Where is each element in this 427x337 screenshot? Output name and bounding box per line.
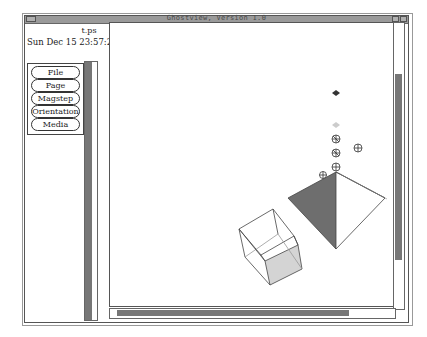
orientation-menu-button[interactable]: Orientation bbox=[31, 105, 80, 118]
rendered-page-graphic bbox=[110, 23, 393, 306]
light-diamond-shape bbox=[332, 122, 340, 128]
polyhedron-4 bbox=[332, 163, 340, 171]
command-button-box: File Page Magstep Orientation Media bbox=[27, 63, 84, 135]
dark-diamond-shape bbox=[332, 90, 340, 96]
page-menu-button[interactable]: Page bbox=[31, 79, 80, 92]
media-menu-button[interactable]: Media bbox=[31, 118, 80, 131]
polyhedron-2 bbox=[332, 149, 340, 157]
window-title: Ghostview, Version 1.0 bbox=[25, 14, 408, 22]
ghostview-window: Ghostview, Version 1.0 t.ps Sun Dec 15 2… bbox=[24, 15, 409, 323]
polyhedron-1 bbox=[332, 135, 340, 143]
postscript-view[interactable] bbox=[109, 22, 394, 307]
file-menu-button[interactable]: File bbox=[31, 66, 80, 79]
view-horizontal-scroll-thumb[interactable] bbox=[117, 310, 349, 316]
view-vertical-scrollbar[interactable] bbox=[393, 22, 405, 310]
page-list-scroll-thumb[interactable] bbox=[85, 62, 92, 320]
view-horizontal-scrollbar[interactable] bbox=[109, 308, 396, 319]
page-list-scrollbar[interactable] bbox=[84, 61, 98, 321]
magstep-menu-button[interactable]: Magstep bbox=[31, 92, 80, 105]
polyhedron-3 bbox=[354, 144, 362, 152]
wireframe-cube-shape bbox=[239, 209, 302, 285]
pyramid-shape bbox=[288, 172, 387, 249]
view-vertical-scroll-thumb[interactable] bbox=[395, 74, 402, 260]
